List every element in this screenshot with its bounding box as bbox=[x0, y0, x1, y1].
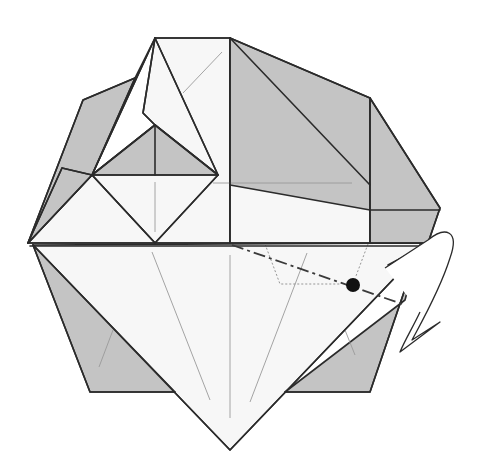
reference-point-dot bbox=[346, 278, 360, 292]
right-upper-flap bbox=[230, 38, 370, 210]
diagram-canvas bbox=[0, 0, 479, 469]
origami-diagram bbox=[0, 0, 479, 469]
right-side-flap bbox=[370, 98, 440, 243]
